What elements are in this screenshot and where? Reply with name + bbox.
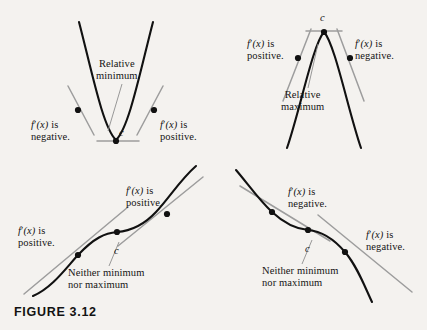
annotation-line-1: Relative: [285, 89, 321, 100]
panel-relative-maximum-left-label: f′(x) is positive.: [247, 38, 284, 62]
figure-caption: FIGURE 3.12: [14, 305, 97, 319]
left-label-var: (x): [36, 119, 48, 130]
panel-decreasing-inflection-left-label: f′(x) is negative.: [288, 186, 327, 210]
left-label-var: (x): [23, 225, 35, 236]
point-left: [269, 209, 275, 215]
point-right: [151, 107, 157, 113]
right-label-line-2: negative.: [366, 241, 405, 252]
panel-relative-maximum-c-label: c: [320, 12, 325, 23]
annotation-line-1: Relative: [99, 58, 135, 69]
left-label-var: (x): [293, 186, 305, 197]
right-label-line-2: positive.: [126, 197, 163, 208]
panel-increasing-inflection-right-label: f′(x) is positive.: [126, 185, 163, 209]
point-critical-c: [321, 29, 327, 35]
panel-increasing-inflection-c-label: c: [114, 245, 119, 256]
right-label-tail: is: [372, 38, 382, 49]
right-label-line-2: positive.: [160, 131, 197, 142]
panel-increasing-inflection-left-label: f′(x) is positive.: [18, 225, 55, 249]
panel-relative-maximum-annotation: Relative maximum: [281, 89, 324, 113]
point-right: [164, 211, 170, 217]
left-label-line-2: positive.: [247, 50, 284, 61]
panel-relative-minimum-left-label: f′(x) is negative.: [31, 119, 70, 143]
point-left: [295, 55, 301, 61]
annotation-line-1: Neither minimum: [68, 267, 144, 278]
right-label-tail: is: [177, 119, 187, 130]
panel-decreasing-inflection-annotation: Neither minimum nor maximum: [262, 265, 338, 289]
right-label-var: (x): [371, 229, 383, 240]
annotation-line-2: nor maximum: [68, 279, 128, 290]
panel-relative-minimum-c-label: c: [119, 127, 124, 138]
right-label-tail: is: [143, 185, 153, 196]
point-critical-c: [114, 229, 120, 235]
panel-relative-minimum-graphics: [68, 22, 163, 144]
left-label-line-2: negative.: [31, 131, 70, 142]
leader-relative-minimum: [108, 84, 122, 131]
left-label-tail: is: [35, 225, 45, 236]
panel-decreasing-inflection-c-label: c: [305, 243, 310, 254]
right-label-line-2: negative.: [355, 50, 394, 61]
left-label-tail: is: [48, 119, 58, 130]
point-left: [75, 252, 81, 258]
left-label-tail: is: [264, 38, 274, 49]
right-label-var: (x): [131, 185, 143, 196]
left-label-line-2: negative.: [288, 198, 327, 209]
right-label-var: (x): [165, 119, 177, 130]
panel-relative-minimum-right-label: f′(x) is positive.: [160, 119, 197, 143]
annotation-line-2: nor maximum: [262, 277, 322, 288]
annotation-line-2: maximum: [281, 101, 324, 112]
left-label-line-2: positive.: [18, 237, 55, 248]
panel-relative-maximum-right-label: f′(x) is negative.: [355, 38, 394, 62]
annotation-line-1: Neither minimum: [262, 265, 338, 276]
point-left: [75, 107, 81, 113]
panel-relative-minimum-annotation: Relative minimum: [96, 58, 138, 82]
left-label-var: (x): [252, 38, 264, 49]
point-critical-c: [305, 227, 311, 233]
right-label-tail: is: [383, 229, 393, 240]
left-label-tail: is: [305, 186, 315, 197]
panel-decreasing-inflection-right-label: f′(x) is negative.: [366, 229, 405, 253]
point-right: [342, 249, 348, 255]
panel-increasing-inflection-annotation: Neither minimum nor maximum: [68, 267, 144, 291]
right-label-var: (x): [360, 38, 372, 49]
point-critical-c: [113, 138, 119, 144]
point-right: [347, 55, 353, 61]
figure-3-12: Relative minimum f′(x) is negative. f′(x…: [0, 0, 427, 330]
annotation-line-2: minimum: [96, 70, 138, 81]
